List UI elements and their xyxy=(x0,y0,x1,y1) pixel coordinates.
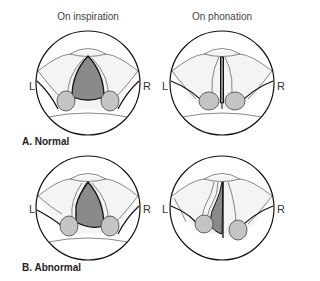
right-label-normal-inspiration: R xyxy=(143,80,151,92)
normal-phonation-view xyxy=(170,31,274,135)
panel-label-normal: A. Normal xyxy=(22,136,69,147)
abnormal-phonation-view xyxy=(170,156,274,260)
left-label-abnormal-inspiration: L xyxy=(29,203,35,215)
left-label-abnormal-phonation: L xyxy=(162,203,168,215)
left-label-normal-phonation: L xyxy=(162,80,168,92)
panel-label-abnormal: B. Abnormal xyxy=(22,262,81,273)
right-label-abnormal-inspiration: R xyxy=(143,203,151,215)
right-label-abnormal-phonation: R xyxy=(277,203,285,215)
abnormal-inspiration-view xyxy=(36,156,140,260)
normal-inspiration-view xyxy=(36,31,140,135)
right-label-normal-phonation: R xyxy=(277,80,285,92)
left-label-normal-inspiration: L xyxy=(29,80,35,92)
